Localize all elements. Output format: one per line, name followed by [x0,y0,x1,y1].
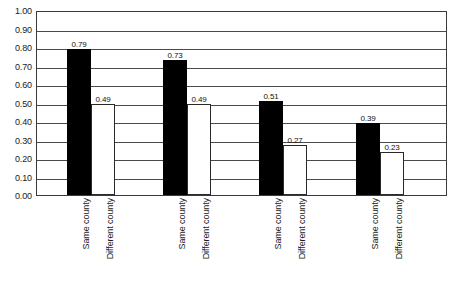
y-axis-tick-label: 0.60 [15,81,32,90]
bar-value-label: 0.27 [287,137,302,145]
bar-value-label: 0.49 [191,96,206,104]
y-axis-tick-label: 1.00 [15,7,32,16]
bar-value-label: 0.79 [71,41,86,49]
bar [187,104,211,195]
category-label: Different county [298,198,307,259]
y-axis-tick-label: 0.90 [15,25,32,34]
category-label: Different county [106,198,115,259]
y-axis-tick-label: 0.30 [15,136,32,145]
bar [67,49,91,195]
y-axis-tick-label: 0.80 [15,44,32,53]
y-axis-tick-label: 0.00 [15,192,32,201]
category-label: Different county [202,198,211,259]
bar [259,101,283,195]
category-label: Same county [274,198,283,249]
bar-chart: 1.000.900.800.700.600.500.400.300.200.10… [0,0,459,284]
bar-value-label: 0.51 [263,93,278,101]
y-axis-tick-label: 0.70 [15,62,32,71]
category-label: Same county [82,198,91,249]
plot-area: 0.790.490.730.490.510.270.390.23 [36,11,447,196]
y-axis-tick-label: 0.50 [15,99,32,108]
bar-value-label: 0.49 [95,96,110,104]
y-axis: 1.000.900.800.700.600.500.400.300.200.10… [0,0,36,284]
bars-layer: 0.790.490.730.490.510.270.390.23 [37,12,446,195]
y-axis-tick-label: 0.10 [15,173,32,182]
bar [380,152,404,195]
bar [91,104,115,195]
y-axis-tick-label: 0.20 [15,155,32,164]
bar [163,60,187,195]
category-axis-labels: Same countyDifferent countySame countyDi… [36,198,447,284]
bar-value-label: 0.39 [360,115,375,123]
bar-value-label: 0.23 [384,144,399,152]
y-axis-tick-label: 0.40 [15,118,32,127]
category-label: Same county [178,198,187,249]
bar [356,123,380,195]
bar-value-label: 0.73 [167,52,182,60]
bar [283,145,307,195]
category-label: Different county [395,198,404,259]
category-label: Same county [371,198,380,249]
